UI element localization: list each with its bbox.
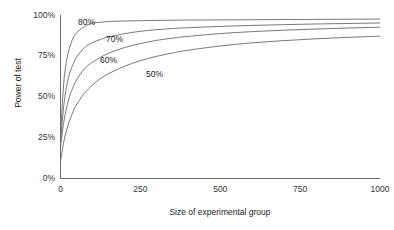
y-axis-title: Power of test: [13, 28, 23, 138]
curve-label-60pct: 60%: [100, 56, 117, 65]
curve-label-80pct: 80%: [78, 18, 95, 27]
x-tick-label: 500: [200, 184, 240, 194]
x-tick-label: 0: [41, 184, 81, 194]
x-tick-label: 1000: [360, 184, 394, 194]
power-curve-60pct: [61, 27, 381, 147]
y-tick-label: 25%: [0, 133, 55, 142]
curve-label-70pct: 70%: [106, 35, 123, 44]
y-tick-label: 75%: [0, 51, 55, 60]
x-axis-line: [60, 178, 380, 179]
x-axis-title: Size of experimental group: [60, 207, 380, 217]
y-tick-label: 0%: [0, 174, 55, 183]
y-tick-label: 100%: [0, 11, 55, 20]
x-tick-label: 750: [280, 184, 320, 194]
y-axis-line: [60, 15, 61, 179]
curve-label-50pct: 50%: [146, 70, 163, 79]
x-tick-label: 250: [120, 184, 160, 194]
y-tick-label: 50%: [0, 92, 55, 101]
